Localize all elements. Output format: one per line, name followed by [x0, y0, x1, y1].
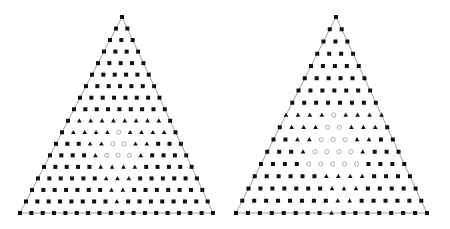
square-marker	[308, 89, 312, 93]
square-marker	[140, 107, 144, 111]
triangle-marker	[82, 130, 87, 134]
triangle-marker	[71, 130, 76, 134]
circle-marker	[325, 125, 329, 129]
square-marker	[408, 174, 412, 178]
triangle-marker	[110, 164, 115, 168]
triangle-marker	[133, 164, 138, 168]
square-marker	[322, 40, 326, 44]
square-marker	[107, 84, 111, 88]
square-marker	[252, 199, 256, 203]
square-marker	[300, 199, 304, 203]
square-marker	[333, 40, 337, 44]
square-marker	[402, 187, 406, 191]
triangle-marker	[109, 188, 114, 192]
square-marker	[374, 101, 378, 105]
square-marker	[278, 125, 282, 129]
square-marker	[259, 162, 263, 166]
triangle-marker	[88, 141, 93, 145]
square-marker	[407, 199, 411, 203]
square-marker	[277, 150, 281, 154]
square-marker	[327, 76, 331, 80]
square-marker	[98, 188, 102, 192]
square-marker	[338, 101, 342, 105]
square-marker	[103, 199, 107, 203]
square-marker	[135, 96, 139, 100]
square-marker	[120, 211, 124, 215]
square-marker	[340, 27, 344, 31]
square-marker	[152, 84, 156, 88]
square-marker	[276, 199, 280, 203]
triangle-marker	[99, 141, 104, 145]
square-marker	[272, 138, 276, 142]
triangle-marker	[360, 149, 365, 153]
square-marker	[168, 142, 172, 146]
circle-marker	[342, 162, 346, 166]
triangle-marker	[139, 130, 144, 134]
circle-marker	[354, 162, 358, 166]
square-marker	[146, 96, 150, 100]
square-marker	[81, 176, 85, 180]
square-marker	[138, 199, 142, 203]
square-marker	[96, 61, 100, 65]
square-marker	[395, 199, 399, 203]
triangle-marker	[145, 141, 150, 145]
square-marker	[75, 188, 79, 192]
square-marker	[119, 61, 123, 65]
square-marker	[60, 130, 64, 134]
square-marker	[288, 199, 292, 203]
square-marker	[390, 187, 394, 191]
simplex-diagrams	[0, 0, 450, 229]
square-marker	[141, 61, 145, 65]
square-marker	[29, 211, 33, 215]
square-marker	[143, 211, 147, 215]
square-marker	[124, 73, 128, 77]
square-marker	[189, 188, 193, 192]
triangle-marker	[162, 130, 167, 134]
square-marker	[247, 187, 251, 191]
square-marker	[372, 199, 376, 203]
circle-marker	[343, 137, 347, 141]
triangle-marker	[342, 186, 347, 190]
square-marker	[54, 142, 58, 146]
right-simplex-diagram	[234, 15, 429, 215]
square-marker	[253, 174, 257, 178]
triangle-marker	[373, 125, 378, 129]
circle-marker	[116, 153, 120, 157]
square-marker	[113, 73, 117, 77]
square-marker	[283, 162, 287, 166]
square-marker	[362, 76, 366, 80]
circle-marker	[331, 162, 335, 166]
square-marker	[81, 199, 85, 203]
square-marker	[211, 211, 215, 215]
triangle-marker	[296, 113, 301, 117]
square-marker	[154, 211, 158, 215]
square-marker	[384, 199, 388, 203]
square-marker	[144, 188, 148, 192]
square-marker	[188, 211, 192, 215]
square-marker	[58, 199, 62, 203]
square-marker	[126, 199, 130, 203]
square-marker	[161, 176, 165, 180]
triangle-marker	[355, 137, 360, 141]
triangle-marker	[307, 137, 312, 141]
square-marker	[97, 211, 101, 215]
square-marker	[18, 211, 22, 215]
square-marker	[141, 84, 145, 88]
square-marker	[156, 142, 160, 146]
simplex-outline	[20, 17, 213, 213]
square-marker	[234, 211, 238, 215]
square-marker	[334, 15, 338, 19]
square-marker	[333, 64, 337, 68]
square-marker	[190, 165, 194, 169]
square-marker	[183, 199, 187, 203]
square-marker	[147, 73, 151, 77]
left-simplex-diagram	[18, 15, 215, 215]
triangle-marker	[343, 113, 348, 117]
square-marker	[397, 150, 401, 154]
square-marker	[345, 40, 349, 44]
square-marker	[283, 138, 287, 142]
circle-marker	[307, 162, 311, 166]
square-marker	[166, 188, 170, 192]
square-marker	[178, 188, 182, 192]
square-marker	[318, 211, 322, 215]
